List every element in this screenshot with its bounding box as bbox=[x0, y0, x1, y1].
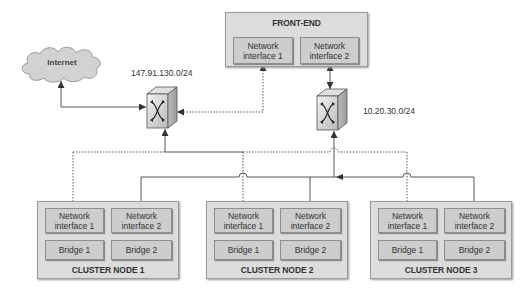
cluster-node-1-network-interface-2: Network interface 2 bbox=[111, 208, 172, 233]
ni-label-line1: Network bbox=[228, 211, 259, 221]
front-end-network-interface-2: Network interface 2 bbox=[300, 37, 359, 64]
cluster-node-2-bridge-2: Bridge 2 bbox=[280, 240, 341, 260]
ni-label-line2: interface 1 bbox=[388, 221, 428, 231]
public-bus-right bbox=[243, 148, 407, 152]
internet-label: Internet bbox=[22, 58, 102, 67]
cluster-node-3-bridge-1: Bridge 1 bbox=[378, 240, 437, 260]
ni-label-line2: interface 2 bbox=[122, 221, 162, 231]
cluster-node-3-bridge-2: Bridge 2 bbox=[444, 240, 505, 260]
ni-label-line1: Network bbox=[247, 41, 278, 51]
ni-label-line1: Network bbox=[314, 41, 345, 51]
cluster-node-3-network-interface-1: Network interface 1 bbox=[378, 208, 437, 233]
cluster-node-1-bridge-2: Bridge 2 bbox=[111, 240, 172, 260]
cluster-node-1-network-interface-1: Network interface 1 bbox=[45, 208, 104, 233]
switch-icon-public bbox=[147, 87, 177, 128]
arrow-left-icon bbox=[336, 174, 343, 180]
ni-label-line2: interface 2 bbox=[291, 221, 331, 231]
ni-label-line2: interface 1 bbox=[243, 51, 283, 61]
front-end-box: FRONT-END Network interface 1 Network in… bbox=[225, 12, 368, 67]
cluster-node-2-network-interface-1: Network interface 1 bbox=[214, 208, 273, 233]
network-diagram: Internet 147.91.130.0/24 10.20.30.0/24 F… bbox=[0, 0, 532, 297]
cluster-node-1-bridge-1: Bridge 1 bbox=[45, 240, 104, 260]
ni-label-line2: interface 1 bbox=[224, 221, 264, 231]
cluster-node-1-box: Network interface 1 Network interface 2 … bbox=[37, 201, 179, 279]
ni-label-line2: interface 2 bbox=[310, 51, 350, 61]
ni-label-line1: Network bbox=[295, 211, 326, 221]
cluster-node-2-network-interface-2: Network interface 2 bbox=[280, 208, 341, 233]
cluster-node-3-network-interface-2: Network interface 2 bbox=[444, 208, 505, 233]
switch1-subnet-label: 147.91.130.0/24 bbox=[131, 68, 192, 78]
switch-icon-private bbox=[317, 89, 347, 130]
ni-label-line1: Network bbox=[392, 211, 423, 221]
cluster-node-2-box: Network interface 1 Network interface 2 … bbox=[206, 201, 348, 279]
switch2-subnet-label: 10.20.30.0/24 bbox=[363, 106, 415, 116]
ni-label-line1: Network bbox=[459, 211, 490, 221]
link-internet-switch1 bbox=[61, 81, 146, 107]
ni-label-line1: Network bbox=[59, 211, 90, 221]
cluster-node-3-box: Network interface 1 Network interface 2 … bbox=[370, 201, 512, 279]
cluster-node-2-bridge-1: Bridge 1 bbox=[214, 240, 273, 260]
front-end-network-interface-1: Network interface 1 bbox=[233, 37, 293, 64]
cluster-node-3-title: CLUSTER NODE 3 bbox=[371, 265, 511, 275]
ni-label-line2: interface 2 bbox=[455, 221, 495, 231]
cluster-node-1-title: CLUSTER NODE 1 bbox=[38, 265, 178, 275]
front-end-title: FRONT-END bbox=[226, 18, 367, 28]
ni-label-line1: Network bbox=[126, 211, 157, 221]
ni-label-line2: interface 1 bbox=[55, 221, 95, 231]
cluster-node-2-title: CLUSTER NODE 2 bbox=[207, 265, 347, 275]
